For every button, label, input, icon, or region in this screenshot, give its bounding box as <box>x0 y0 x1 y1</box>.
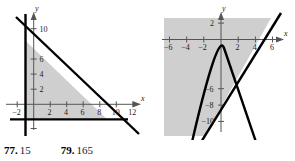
answer-item-77: 77.15 <box>4 140 31 158</box>
answer-value-77: 15 <box>20 144 31 156</box>
svg-text:4: 4 <box>253 43 257 52</box>
left-y-axis-label: y <box>34 4 39 13</box>
right-graph-panel: −6 −4 −2 2 4 6 2 −6 −8 −10 x y <box>148 0 295 140</box>
left-x-axis-label: x <box>140 94 145 103</box>
svg-text:−2: −2 <box>198 43 207 52</box>
svg-text:−4: −4 <box>181 43 190 52</box>
svg-text:−8: −8 <box>205 101 214 110</box>
answer-item-79: 79.165 <box>61 140 93 158</box>
right-shaded-region <box>164 18 271 136</box>
answer-value-79: 165 <box>77 144 94 156</box>
svg-text:6: 6 <box>270 43 274 52</box>
figure-container: −2 2 4 6 8 10 12 2 4 6 10 x y <box>0 0 295 161</box>
svg-text:−2: −2 <box>12 108 21 117</box>
left-graph-panel: −2 2 4 6 8 10 12 2 4 6 10 x y <box>0 0 150 140</box>
svg-text:8: 8 <box>97 108 101 117</box>
svg-text:6: 6 <box>81 108 85 117</box>
svg-text:2: 2 <box>48 108 52 117</box>
left-graph-svg: −2 2 4 6 8 10 12 2 4 6 10 x y <box>0 0 150 140</box>
right-y-axis-label: y <box>221 4 226 13</box>
svg-text:−6: −6 <box>164 43 173 52</box>
svg-text:2: 2 <box>236 43 240 52</box>
answer-number-79: 79. <box>61 144 75 156</box>
svg-text:4: 4 <box>40 70 44 79</box>
svg-text:−10: −10 <box>202 117 215 126</box>
answer-list: 77.15 79.165 <box>4 140 295 161</box>
svg-text:12: 12 <box>128 108 136 117</box>
right-x-axis-label: x <box>283 29 288 38</box>
svg-text:2: 2 <box>210 19 214 28</box>
svg-text:10: 10 <box>112 108 120 117</box>
right-graph-svg: −6 −4 −2 2 4 6 2 −6 −8 −10 x y <box>148 0 295 140</box>
svg-text:6: 6 <box>40 55 44 64</box>
svg-text:10: 10 <box>40 25 48 34</box>
svg-text:4: 4 <box>64 108 68 117</box>
svg-text:2: 2 <box>40 85 44 94</box>
answer-number-77: 77. <box>4 144 18 156</box>
svg-text:−6: −6 <box>205 85 214 94</box>
